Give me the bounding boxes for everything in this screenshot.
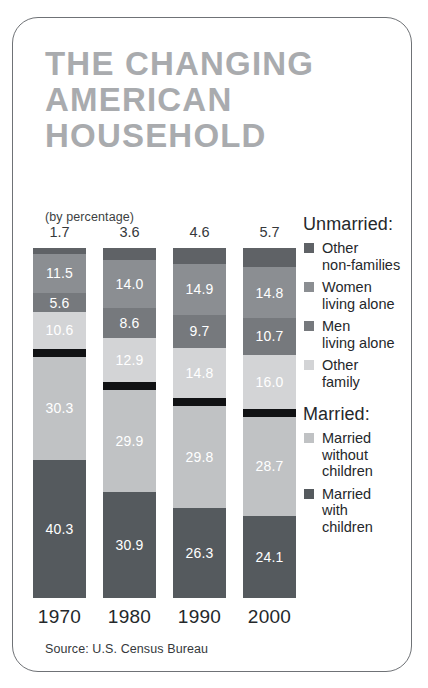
legend-label-married_with_children-line2: with [322,502,421,519]
bar-segment-1970-married-without-children: 30.3 [33,357,86,461]
segment-value-label: 29.9 [115,434,143,448]
legend-label-other_family-line1: Other [322,357,358,373]
stacked-bar-chart: 1.711.55.610.630.340.33.614.08.612.929.9… [33,224,295,604]
bar-segment-1980-other-family: 12.9 [103,338,156,382]
title-line-2: AMERICAN [45,82,365,118]
segment-value-label: 14.0 [115,277,143,291]
bar-segment-1990-married-without-children: 29.8 [173,406,226,508]
legend-group-unmarried-label: Unmarried: [303,214,421,235]
legend-label-married_without_children-line2: without [322,447,421,464]
year-label-1990: 1990 [173,606,226,628]
legend-swatch-icon-married_with_children [304,489,314,499]
x-axis-year-labels: 1970198019902000 [33,606,295,632]
bar-segment-1990-married-with-children: 26.3 [173,508,226,598]
bar-segment-2000-other-non-families [243,248,296,267]
segment-value-label: 26.3 [185,546,213,560]
segment-value-label: 14.9 [185,282,213,296]
stacked-bar-1970: 11.55.610.630.340.3 [33,248,86,598]
bar-segment-1970-men-living-alone: 5.6 [33,293,86,312]
legend-group-unmarried-items: Othernon-familiesWomenliving aloneMenliv… [303,240,421,390]
bar-segment-2000-men-living-alone: 10.7 [243,318,296,355]
bar-top-value-1980: 3.6 [103,224,156,240]
title-line-3: HOUSEHOLD [45,118,365,154]
legend-label-other_non_families-line1: Other [322,240,358,256]
legend-item-married_with_children[interactable]: Marriedwithchildren [303,486,421,536]
title-line-1: THE CHANGING [45,46,365,82]
bar-top-value-2000: 5.7 [243,224,296,240]
bar-segment-1990-men-living-alone: 9.7 [173,315,226,348]
bar-top-value-1990: 4.6 [173,224,226,240]
legend-item-married_without_children[interactable]: Marriedwithoutchildren [303,430,421,480]
segment-value-label: 24.1 [255,550,283,564]
stacked-bar-1980: 14.08.612.929.930.9 [103,248,156,598]
segment-value-label: 30.9 [115,538,143,552]
legend-label-married_with_children-line3: children [322,519,421,536]
bar-segment-2000-other-family: 16.0 [243,355,296,410]
bar-segment-2000-women-living-alone: 14.8 [243,267,296,318]
married-unmarried-divider-1990 [173,398,226,406]
legend-swatch-icon-men_living_alone [304,321,314,331]
bar-segment-1980-married-with-children: 30.9 [103,492,156,598]
segment-value-label: 12.9 [115,353,143,367]
bar-segment-1970-other-family: 10.6 [33,312,86,348]
legend-group-married-label: Married: [303,404,421,425]
bar-column-1980: 3.614.08.612.929.930.9 [103,224,156,604]
page-title: THE CHANGING AMERICAN HOUSEHOLD [45,46,365,154]
year-label-2000: 2000 [243,606,296,628]
legend-label-women_living_alone-line2: living alone [322,296,421,313]
year-label-1970: 1970 [33,606,86,628]
segment-value-label: 40.3 [45,522,73,536]
bar-segment-1980-married-without-children: 29.9 [103,390,156,492]
bar-segment-1990-other-family: 14.8 [173,348,226,399]
legend-swatch-icon-married_without_children [304,433,314,443]
segment-value-label: 8.6 [119,316,139,330]
year-label-1980: 1980 [103,606,156,628]
legend-item-other_family[interactable]: Otherfamily [303,357,421,390]
legend-item-men_living_alone[interactable]: Menliving alone [303,318,421,351]
chart-legend: Unmarried: Othernon-familiesWomenliving … [303,214,421,541]
bar-segment-1980-other-non-families [103,248,156,260]
legend-swatch-icon-other_family [304,360,314,370]
bar-segment-1990-other-non-families [173,248,226,264]
bar-column-1990: 4.614.99.714.829.826.3 [173,224,226,604]
married-unmarried-divider-2000 [243,409,296,417]
segment-value-label: 10.7 [255,329,283,343]
legend-label-married_with_children-line1: Married [322,486,371,502]
stacked-bar-2000: 14.810.716.028.724.1 [243,248,296,598]
segment-value-label: 29.8 [185,450,213,464]
bar-segment-1970-married-with-children: 40.3 [33,460,86,598]
legend-item-other_non_families[interactable]: Othernon-families [303,240,421,273]
legend-label-women_living_alone-line1: Women [322,279,372,295]
segment-value-label: 28.7 [255,459,283,473]
legend-label-married_without_children-line3: children [322,463,421,480]
stacked-bar-1990: 14.99.714.829.826.3 [173,248,226,598]
legend-label-other_family-line2: family [322,374,421,391]
legend-label-men_living_alone-line1: Men [322,318,350,334]
bar-segment-1980-women-living-alone: 14.0 [103,260,156,308]
bar-column-1970: 1.711.55.610.630.340.3 [33,224,86,604]
bar-segment-2000-married-with-children: 24.1 [243,516,296,598]
married-unmarried-divider-1980 [103,382,156,390]
legend-label-married_without_children-line1: Married [322,430,371,446]
legend-label-men_living_alone-line2: living alone [322,335,421,352]
legend-group-married-items: MarriedwithoutchildrenMarriedwithchildre… [303,430,421,535]
bar-segment-1980-men-living-alone: 8.6 [103,308,156,337]
bar-segment-1970-women-living-alone: 11.5 [33,254,86,293]
segment-value-label: 16.0 [255,375,283,389]
source-note: Source: U.S. Census Bureau [45,642,208,656]
subtitle-by-percentage: (by percentage) [45,210,134,224]
married-unmarried-divider-1970 [33,349,86,357]
legend-item-women_living_alone[interactable]: Womenliving alone [303,279,421,312]
bar-column-2000: 5.714.810.716.028.724.1 [243,224,296,604]
segment-value-label: 14.8 [185,366,213,380]
infographic-card: THE CHANGING AMERICAN HOUSEHOLD (by perc… [12,17,412,672]
segment-value-label: 10.6 [45,323,73,337]
legend-label-other_non_families-line2: non-families [322,257,421,274]
segment-value-label: 30.3 [45,401,73,415]
bar-segment-2000-married-without-children: 28.7 [243,417,296,515]
segment-value-label: 9.7 [189,324,209,338]
bar-top-value-1970: 1.7 [33,224,86,240]
segment-value-label: 5.6 [49,296,69,310]
legend-swatch-icon-women_living_alone [304,282,314,292]
legend-swatch-icon-other_non_families [304,243,314,253]
